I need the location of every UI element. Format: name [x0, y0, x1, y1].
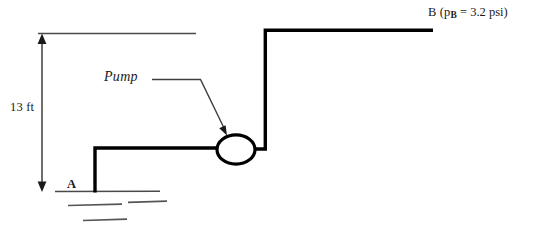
- hatch-line-1: [68, 204, 122, 205]
- pump-leader-arrowhead-icon: [219, 125, 227, 135]
- point-b-pressure-value: = 3.2 psi): [457, 5, 508, 19]
- hatch-line-2: [128, 201, 167, 202]
- pump-symbol-icon: [217, 135, 255, 164]
- suction-pipe: [95, 148, 220, 193]
- hatch-line-3: [83, 219, 127, 220]
- elevation-arrow-top-icon: [38, 34, 47, 45]
- elevation-dimension-label: 13 ft: [10, 101, 34, 114]
- point-a-label: A: [67, 178, 76, 191]
- diagram-canvas: [0, 0, 533, 238]
- elevation-arrow-bottom-icon: [38, 182, 47, 193]
- point-b-label: B (pB = 3.2 psi): [428, 6, 508, 21]
- discharge-pipe: [252, 30, 433, 149]
- pump-system-figure: 13 ft Pump A B (pB = 3.2 psi): [0, 0, 533, 238]
- pump-leader-line: [152, 80, 224, 129]
- point-b-paren-open: (p: [436, 5, 450, 19]
- pump-callout-label: Pump: [104, 70, 138, 84]
